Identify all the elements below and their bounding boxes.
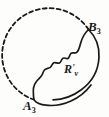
label-b3-subscript: 3 — [97, 27, 101, 36]
label-point-b3: B3 — [88, 18, 101, 34]
label-rv-subscript: v — [74, 69, 78, 78]
dashed-circle-arc — [2, 8, 88, 99]
figure-container: A3 B3 R′v — [0, 0, 109, 117]
label-a3-base: A — [23, 98, 32, 113]
label-rv-base: R — [64, 62, 72, 76]
label-region-rv: R′v — [64, 60, 78, 76]
wavy-region-boundary — [33, 30, 91, 106]
label-b3-base: B — [88, 19, 97, 34]
label-point-a3: A3 — [23, 97, 36, 113]
label-a3-subscript: 3 — [32, 106, 36, 115]
